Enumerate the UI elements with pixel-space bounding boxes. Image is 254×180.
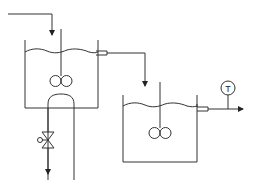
drain-valve-icon[interactable] (38, 132, 55, 148)
tank-2-overflow-weir (197, 104, 208, 111)
temperature-indicator-label: T (225, 84, 231, 94)
drain-line (38, 108, 55, 174)
tank-1-impeller-right (61, 76, 72, 87)
outlet-line: T (208, 81, 243, 109)
tank-1-impeller-left (50, 76, 61, 87)
tank-2-impeller-left (149, 128, 160, 139)
tank-1 (25, 29, 107, 180)
tank-2 (123, 82, 208, 162)
inlet-feed-line (8, 14, 52, 35)
process-diagram: T (0, 0, 254, 180)
transfer-line (107, 53, 145, 86)
tank-1-inner-dome (48, 94, 74, 180)
tank-2-impeller-right (160, 128, 171, 139)
temperature-indicator-icon[interactable]: T (221, 81, 235, 95)
